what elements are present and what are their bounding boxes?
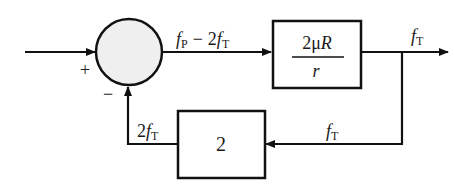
feedback-input-label: fT xyxy=(326,121,339,143)
error-signal-label: fP−2fT xyxy=(176,29,230,51)
minus-sign: − xyxy=(103,84,113,104)
forward-block-numerator: 2μR xyxy=(302,33,332,53)
summing-junction xyxy=(96,19,162,85)
block-diagram: + − fP−2fT 2μR r fT fT 2 2fT xyxy=(0,0,454,188)
feedback-output-label: 2fT xyxy=(137,121,159,143)
output-signal-label: fT xyxy=(411,26,424,48)
plus-sign: + xyxy=(80,60,90,80)
forward-block-denominator: r xyxy=(312,61,320,81)
feedback-block-gain: 2 xyxy=(216,133,226,155)
